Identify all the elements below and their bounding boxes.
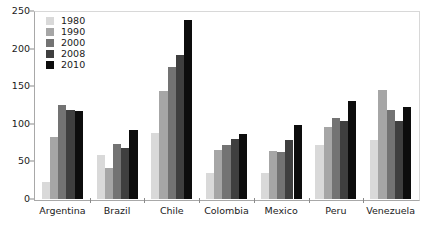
legend-item[interactable]: 2010 xyxy=(46,59,106,70)
bar xyxy=(58,105,66,199)
x-tick-label: Brazil xyxy=(104,205,131,216)
y-axis: 050100150200250 xyxy=(0,0,30,230)
bar xyxy=(269,151,277,199)
bar xyxy=(129,130,137,199)
y-tick-mark xyxy=(29,123,34,124)
bar xyxy=(277,152,285,199)
bar xyxy=(324,127,332,199)
bar xyxy=(285,140,293,199)
y-tick-label: 0 xyxy=(0,194,30,204)
bar xyxy=(370,140,378,199)
legend-label: 2000 xyxy=(61,38,85,48)
bar xyxy=(50,137,58,199)
bar xyxy=(395,121,403,199)
bar xyxy=(105,168,113,199)
bar xyxy=(348,101,356,200)
x-tick-label: Chile xyxy=(160,205,184,216)
legend-swatch-icon xyxy=(46,50,54,58)
legend: 19801990200020082010 xyxy=(46,15,106,70)
y-tick-mark xyxy=(29,161,34,162)
y-tick-label: 150 xyxy=(0,81,30,91)
x-tick-label: Mexico xyxy=(265,205,298,216)
bar xyxy=(176,55,184,199)
bar xyxy=(184,20,192,199)
legend-item[interactable]: 1990 xyxy=(46,26,106,37)
x-tick-mark xyxy=(144,198,145,203)
bar-group xyxy=(144,11,199,199)
bar xyxy=(113,144,121,199)
x-tick-label: Argentina xyxy=(39,205,85,216)
bar xyxy=(121,148,129,199)
x-tick-mark xyxy=(90,198,91,203)
bar-group xyxy=(309,11,364,199)
bar xyxy=(159,91,167,199)
bar xyxy=(315,145,323,199)
bar xyxy=(151,133,159,199)
legend-item[interactable]: 1980 xyxy=(46,15,106,26)
x-tick-label: Peru xyxy=(325,205,346,216)
y-tick-mark xyxy=(29,86,34,87)
y-tick-label: 100 xyxy=(0,119,30,129)
legend-swatch-icon xyxy=(46,61,54,69)
x-tick-mark xyxy=(199,198,200,203)
x-tick-mark xyxy=(309,198,310,203)
bar xyxy=(239,134,247,199)
bar xyxy=(214,150,222,199)
bar xyxy=(261,173,269,199)
bar xyxy=(332,118,340,199)
legend-label: 2010 xyxy=(61,60,85,70)
legend-label: 2008 xyxy=(61,49,85,59)
legend-item[interactable]: 2000 xyxy=(46,37,106,48)
bar xyxy=(66,110,74,199)
y-tick-mark xyxy=(29,48,34,49)
y-tick-mark xyxy=(29,199,34,200)
bar xyxy=(403,107,411,199)
x-axis: ArgentinaBrazilChileColombiaMexicoPeruVe… xyxy=(35,205,418,227)
legend-item[interactable]: 2008 xyxy=(46,48,106,59)
bar-group xyxy=(363,11,418,199)
bar xyxy=(206,173,214,199)
bar xyxy=(222,145,230,199)
legend-swatch-icon xyxy=(46,39,54,47)
y-tick-label: 250 xyxy=(0,6,30,16)
y-tick-mark xyxy=(29,11,34,12)
bar xyxy=(97,155,105,199)
legend-label: 1990 xyxy=(61,27,85,37)
bar xyxy=(75,111,83,199)
x-tick-label: Colombia xyxy=(204,205,249,216)
bar xyxy=(387,110,395,199)
y-tick-label: 50 xyxy=(0,157,30,167)
bar xyxy=(378,90,386,199)
legend-label: 1980 xyxy=(61,16,85,26)
x-tick-label: Venezuela xyxy=(366,205,415,216)
bar xyxy=(231,139,239,199)
bar xyxy=(294,125,302,199)
bar-group xyxy=(254,11,309,199)
y-tick-label: 200 xyxy=(0,44,30,54)
legend-swatch-icon xyxy=(46,17,54,25)
bar-chart: 050100150200250 ArgentinaBrazilChileColo… xyxy=(0,0,422,230)
x-tick-mark xyxy=(363,198,364,203)
bar xyxy=(340,121,348,199)
bar xyxy=(42,182,50,199)
bar xyxy=(168,67,176,199)
x-tick-mark xyxy=(254,198,255,203)
legend-swatch-icon xyxy=(46,28,54,36)
bar-group xyxy=(199,11,254,199)
chart-title xyxy=(0,0,422,4)
